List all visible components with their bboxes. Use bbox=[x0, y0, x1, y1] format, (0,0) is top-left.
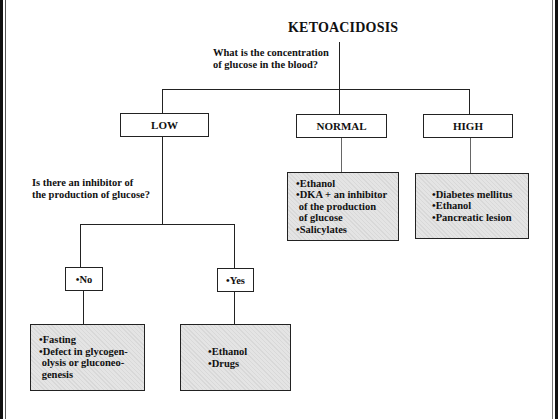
connector-to-normal bbox=[339, 89, 340, 114]
high-box: HIGH bbox=[423, 114, 513, 138]
question-glucose-inhibitor: Is there an inhibitor of the production … bbox=[32, 177, 150, 201]
connector-yes-to-causes bbox=[234, 292, 235, 324]
high-label: HIGH bbox=[453, 120, 483, 132]
low-box: LOW bbox=[120, 113, 209, 137]
connector-root-stem bbox=[339, 42, 340, 89]
connector-level2-bar bbox=[80, 224, 235, 225]
yes-label: •Yes bbox=[226, 275, 245, 286]
normal-cause-item: •Ethanol bbox=[296, 178, 398, 190]
normal-label: NORMAL bbox=[316, 120, 366, 132]
yes-causes-box: •Ethanol •Drugs bbox=[180, 324, 291, 391]
no-cause-item: •Defect in glycogen- olysis or gluconeo-… bbox=[39, 346, 144, 381]
no-box: •No bbox=[65, 267, 103, 291]
frame-border-left-inner bbox=[5, 0, 6, 419]
connector-to-low bbox=[162, 89, 163, 113]
no-causes-box: •Fasting •Defect in glycogen- olysis or … bbox=[30, 324, 145, 391]
yes-box: •Yes bbox=[217, 268, 254, 292]
no-causes-list: •Fasting •Defect in glycogen- olysis or … bbox=[39, 334, 144, 380]
connector-to-no bbox=[80, 224, 81, 267]
high-cause-item: •Diabetes mellitus bbox=[432, 189, 528, 201]
high-cause-item: •Pancreatic lesion bbox=[432, 212, 528, 224]
yes-cause-item: •Ethanol bbox=[208, 346, 290, 358]
normal-causes-box: •Ethanol •DKA + an inhibitor of the prod… bbox=[287, 172, 399, 241]
connector-no-to-causes bbox=[83, 291, 84, 324]
yes-causes-list: •Ethanol •Drugs bbox=[208, 346, 290, 369]
high-cause-item: •Ethanol bbox=[432, 200, 528, 212]
frame-border-left bbox=[0, 0, 3, 419]
frame-border-right-inner bbox=[552, 0, 553, 419]
connector-to-high bbox=[469, 89, 470, 114]
connector-level1-bar bbox=[162, 89, 470, 90]
normal-box: NORMAL bbox=[296, 114, 387, 138]
connector-to-yes bbox=[234, 224, 235, 268]
high-causes-box: •Diabetes mellitus •Ethanol •Pancreatic … bbox=[415, 173, 529, 239]
high-causes-list: •Diabetes mellitus •Ethanol •Pancreatic … bbox=[432, 189, 528, 224]
connector-normal-to-causes bbox=[341, 138, 342, 172]
normal-causes-list: •Ethanol •DKA + an inhibitor of the prod… bbox=[296, 178, 398, 236]
question-glucose-concentration: What is the concentration of glucose in … bbox=[213, 47, 329, 71]
no-cause-item: •Fasting bbox=[39, 334, 144, 346]
no-label: •No bbox=[76, 274, 93, 285]
connector-high-to-causes bbox=[470, 138, 471, 173]
low-label: LOW bbox=[151, 119, 178, 131]
diagram-title: KETOACIDOSIS bbox=[288, 20, 398, 36]
normal-cause-item: •DKA + an inhibitor of the production of… bbox=[296, 189, 398, 224]
yes-cause-item: •Drugs bbox=[208, 358, 290, 370]
normal-cause-item: •Salicylates bbox=[296, 224, 398, 236]
connector-low-stem bbox=[162, 137, 163, 225]
